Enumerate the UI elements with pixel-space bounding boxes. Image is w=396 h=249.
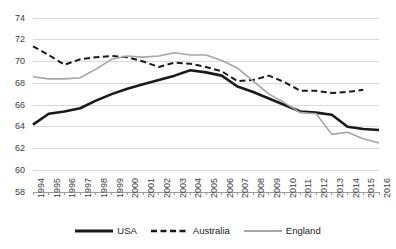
- x-axis-tick-label: 2003: [179, 178, 188, 198]
- x-axis-tick-label: 1994: [37, 178, 46, 198]
- y-axis-tick-label: 64: [3, 122, 25, 131]
- x-axis-tick-label: 2011: [304, 179, 313, 198]
- legend-label-australia: Australia: [193, 226, 230, 236]
- x-axis-tick-label: 2007: [241, 178, 250, 198]
- x-axis-tick-label: 1999: [116, 178, 125, 198]
- x-axis-tick-label: 2008: [257, 178, 266, 198]
- legend-label-england: England: [286, 226, 321, 236]
- y-axis-tick-label: 66: [3, 101, 25, 110]
- x-axis-tick-label: 2016: [383, 178, 392, 198]
- line-chart: 586062646668707274 199419951996199719981…: [0, 0, 396, 249]
- chart-plot-area: [0, 0, 396, 249]
- x-axis-tick-label: 1998: [100, 178, 109, 198]
- y-axis-tick-label: 60: [3, 166, 25, 175]
- legend-swatch-usa: [75, 226, 113, 236]
- x-axis-tick-label: 2004: [194, 178, 203, 198]
- legend-item-usa[interactable]: USA: [75, 226, 137, 236]
- x-axis-tick-label: 2006: [226, 178, 235, 198]
- y-axis-tick-label: 62: [3, 144, 25, 153]
- x-axis-tick-label: 2002: [163, 178, 172, 198]
- x-axis-tick-label: 2012: [320, 178, 329, 198]
- x-axis-tick-label: 2001: [147, 178, 156, 198]
- y-axis-tick-label: 72: [3, 35, 25, 44]
- legend-label-usa: USA: [117, 226, 137, 236]
- legend-item-england[interactable]: England: [244, 226, 321, 236]
- series-lines: [33, 46, 379, 143]
- x-axis-tick-label: 2010: [289, 178, 298, 198]
- x-axis-tick-label: 2015: [367, 178, 376, 198]
- x-axis-tick-label: 2014: [352, 178, 361, 198]
- chart-legend: USAAustraliaEngland: [0, 226, 396, 236]
- y-axis-tick-label: 68: [3, 79, 25, 88]
- x-axis-tick-label: 1996: [68, 178, 77, 198]
- x-axis-tick-label: 1995: [53, 178, 62, 198]
- x-axis-tick-label: 2009: [273, 178, 282, 198]
- x-axis-tick-label: 1997: [84, 178, 93, 198]
- legend-item-australia[interactable]: Australia: [151, 226, 230, 236]
- series-line-australia: [33, 46, 363, 93]
- legend-swatch-england: [244, 226, 282, 236]
- x-axis-tick-label: 2013: [336, 178, 345, 198]
- y-axis-tick-label: 58: [3, 188, 25, 197]
- series-line-usa: [33, 70, 379, 130]
- y-axis-tick-label: 70: [3, 57, 25, 66]
- x-axis-tick-label: 2005: [210, 178, 219, 198]
- x-axis-tick-label: 2000: [131, 178, 140, 198]
- y-axis-tick-label: 74: [3, 14, 25, 23]
- legend-swatch-australia: [151, 226, 189, 236]
